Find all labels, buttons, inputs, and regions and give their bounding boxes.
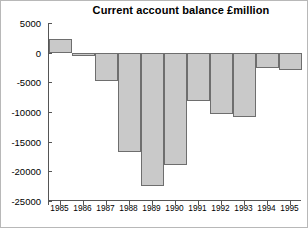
y-tick-mark [48,53,52,54]
chart-title: Current account balance £million [61,4,301,16]
bar-1994 [256,53,279,68]
plot-area [48,23,301,201]
bar-1985 [49,39,72,53]
x-tick-mark [129,201,130,205]
bar-1988 [118,53,141,152]
bars-layer [49,23,301,200]
y-tick-label: 5000 [20,18,41,29]
x-tick-mark [198,201,199,205]
chart-figure: Current account balance £million 50000-5… [0,0,308,228]
x-tick-mark [48,201,49,205]
y-tick-mark [48,112,52,113]
x-tick-mark [60,201,61,205]
x-tick-mark [267,201,268,205]
y-tick-mark [48,171,52,172]
x-tick-mark [152,201,153,205]
bar-1987 [95,53,118,81]
y-tick-mark [48,23,52,24]
y-tick-label: -15000 [11,136,41,147]
y-tick-label: -20000 [11,166,41,177]
x-tick-mark [175,201,176,205]
x-tick-mark [221,201,222,205]
y-tick-mark [48,142,52,143]
bar-1986 [72,53,95,56]
x-tick-mark [106,201,107,205]
y-tick-label: -5000 [17,77,41,88]
y-axis: 50000-5000-10000-15000-20000-25000 [1,1,48,228]
x-axis: 1985198619871988198919901991199219931994… [48,203,301,223]
x-tick-mark [290,201,291,205]
x-tick-mark [83,201,84,205]
x-tick-mark [244,201,245,205]
y-tick-mark [48,82,52,83]
bar-1992 [210,53,233,114]
bar-1989 [141,53,164,186]
bar-1995 [279,53,302,71]
bar-1990 [164,53,187,165]
y-tick-label: -10000 [11,107,41,118]
y-tick-label: 0 [36,47,41,58]
bar-1991 [187,53,210,101]
bar-1993 [233,53,256,117]
y-tick-label: -25000 [11,196,41,207]
